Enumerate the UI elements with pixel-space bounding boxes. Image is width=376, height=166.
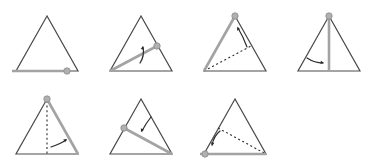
segment-endpoint-marker <box>44 96 50 102</box>
figure-root <box>0 0 376 166</box>
triangle-outline <box>110 16 172 71</box>
rotation-arrow-curve <box>307 58 323 63</box>
rotating-segment <box>204 16 235 71</box>
panel-step-6 <box>94 83 188 166</box>
segment-endpoint-marker <box>202 151 208 157</box>
rotation-arrow-curve <box>51 140 66 147</box>
panel-canvas <box>0 83 94 166</box>
segment-endpoint-marker <box>64 68 70 74</box>
rotation-arrow-head <box>320 61 324 65</box>
segment-endpoint-marker <box>326 13 332 19</box>
rotation-arrow-curve <box>238 28 247 47</box>
panel-canvas <box>0 0 94 83</box>
panel-step-2 <box>94 0 188 83</box>
arrow-head-shape <box>141 46 145 50</box>
triangle-outline <box>16 16 78 71</box>
panel-step-3 <box>188 0 282 83</box>
rotation-arrow-curve <box>142 117 151 131</box>
panel-canvas <box>188 83 282 166</box>
panel-step-5 <box>0 83 94 166</box>
panel-canvas <box>94 83 188 166</box>
panel-canvas <box>188 0 282 83</box>
rotation-arrow-head <box>141 46 145 50</box>
triangle-outline <box>204 99 266 154</box>
rotating-segment <box>47 99 78 154</box>
segment-endpoint-marker <box>154 43 160 49</box>
arrow-head-shape <box>320 61 324 65</box>
panel-canvas <box>94 0 188 83</box>
segment-endpoint-marker <box>232 13 238 19</box>
triangle-outline <box>110 99 172 154</box>
triangle-outline <box>204 16 266 71</box>
panel-step-1 <box>0 0 94 83</box>
panel-step-7 <box>188 83 282 166</box>
segment-endpoint-marker <box>121 125 127 131</box>
panel-step-4 <box>282 0 376 83</box>
panel-canvas <box>282 0 376 83</box>
